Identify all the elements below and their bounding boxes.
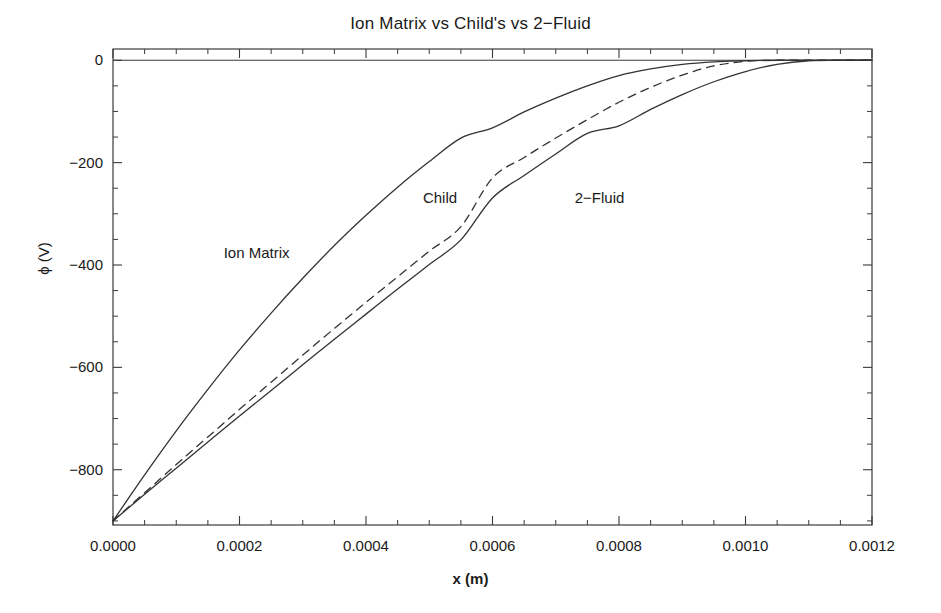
series-line-child <box>113 60 872 521</box>
plot-frame <box>113 49 872 525</box>
plot-area <box>0 0 941 613</box>
series-line-2-fluid <box>113 60 872 521</box>
chart-figure: Ion Matrix vs Child's vs 2−Fluid ϕ (V) x… <box>0 0 941 613</box>
data-series <box>113 60 872 521</box>
axis-ticks <box>113 49 872 525</box>
series-line-ion-matrix <box>113 60 872 521</box>
